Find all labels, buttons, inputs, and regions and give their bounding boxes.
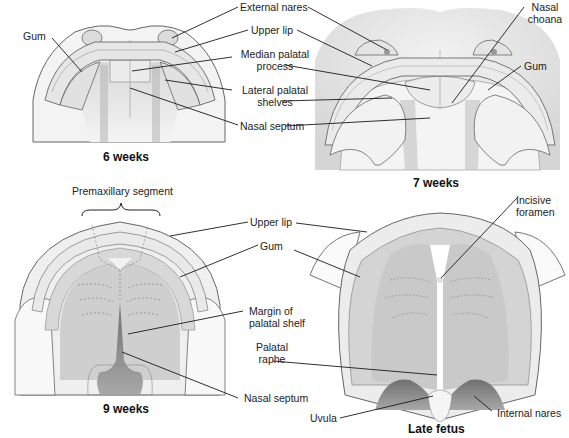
panel-9-weeks [15, 203, 258, 398]
panel-late-fetus [273, 198, 565, 422]
label-premaxillary-segment: Premaxillary segment [72, 185, 173, 197]
panel-6-weeks [33, 7, 248, 142]
label-incisive-foramen: Incisive foramen [516, 194, 555, 218]
caption-9-weeks: 9 weeks [103, 402, 149, 416]
label-nasal-septum-9wk: Nasal septum [244, 392, 308, 404]
label-gum-9wk: Gum [260, 240, 283, 252]
label-nasal-septum-6wk: Nasal septum [240, 120, 304, 132]
caption-late-fetus: Late fetus [408, 422, 465, 436]
label-margin-of-palatal-shelf: Margin of palatal shelf [249, 305, 305, 329]
label-external-nares: External nares [240, 1, 308, 13]
label-internal-nares: Internal nares [497, 407, 561, 419]
label-lateral-palatal-shelves: Lateral palatal shelves [235, 84, 315, 108]
label-upper-lip-6wk: Upper lip [251, 24, 293, 36]
label-median-palatal-process: Median palatal process [235, 48, 315, 72]
caption-7-weeks: 7 weeks [413, 176, 459, 190]
label-nasal-choana: Nasal choana [522, 1, 568, 25]
label-palatal-raphe: Palatal raphe [252, 341, 292, 365]
label-gum-6wk: Gum [23, 30, 46, 42]
label-upper-lip-9wk: Upper lip [250, 216, 292, 228]
label-gum-7wk: Gum [524, 60, 547, 72]
caption-6-weeks: 6 weeks [103, 150, 149, 164]
label-uvula: Uvula [310, 412, 337, 424]
panel-7-weeks [282, 7, 560, 170]
